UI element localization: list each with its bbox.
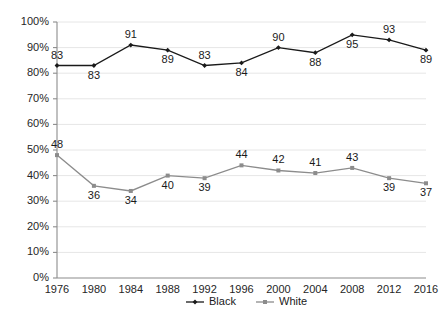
y-axis-tick-label: 90% xyxy=(27,41,49,53)
data-point-label: 40 xyxy=(162,179,174,191)
x-axis-tick-labels: 1976198019841988199219962000200420082012… xyxy=(45,283,438,295)
data-point-label: 83 xyxy=(198,49,210,61)
data-point-marker-white xyxy=(240,163,244,167)
x-axis-tick-label: 1988 xyxy=(155,283,179,295)
data-point-label: 88 xyxy=(309,56,321,68)
y-axis-tick-label: 30% xyxy=(27,194,49,206)
data-point-marker-white xyxy=(203,176,207,180)
legend-label-black: Black xyxy=(209,295,236,307)
y-axis-tick-label: 20% xyxy=(27,220,49,232)
data-point-label: 43 xyxy=(346,151,358,163)
data-point-label: 36 xyxy=(88,189,100,201)
data-point-label: 83 xyxy=(88,69,100,81)
data-point-label: 34 xyxy=(125,194,137,206)
data-point-label: 95 xyxy=(346,38,358,50)
data-point-label: 83 xyxy=(51,49,63,61)
data-point-marker-white xyxy=(55,153,59,157)
data-point-label: 37 xyxy=(420,186,432,198)
x-axis-tick-label: 2012 xyxy=(377,283,401,295)
legend-label-white: White xyxy=(279,295,307,307)
data-point-label: 93 xyxy=(383,23,395,35)
x-axis-tick-label: 2016 xyxy=(414,283,438,295)
y-axis-tick-label: 10% xyxy=(27,245,49,257)
data-point-label: 48 xyxy=(51,138,63,150)
data-point-marker-white xyxy=(350,166,354,170)
y-axis-tick-label: 70% xyxy=(27,92,49,104)
chart-canvas: 0%10%20%30%40%50%60%70%80%90%100% 197619… xyxy=(0,0,447,320)
data-point-label: 42 xyxy=(272,153,284,165)
data-point-label: 89 xyxy=(162,53,174,65)
x-axis-tick-label: 2000 xyxy=(266,283,290,295)
y-axis-tick-label: 60% xyxy=(27,117,49,129)
data-point-label: 90 xyxy=(272,31,284,43)
data-point-label: 39 xyxy=(198,181,210,193)
data-point-marker-white xyxy=(166,174,170,178)
x-axis-tick-label: 1980 xyxy=(82,283,106,295)
y-axis-tick-label: 80% xyxy=(27,66,49,78)
data-point-marker-white xyxy=(424,181,428,185)
x-axis-tick-label: 1984 xyxy=(119,283,143,295)
data-point-label: 89 xyxy=(420,53,432,65)
legend-marker-white xyxy=(263,300,267,304)
data-point-label: 39 xyxy=(383,181,395,193)
y-axis-tick-label: 100% xyxy=(21,15,49,27)
x-axis-tick-label: 1992 xyxy=(192,283,216,295)
y-axis-tick-label: 40% xyxy=(27,169,49,181)
data-point-label: 84 xyxy=(235,66,247,78)
data-point-marker-white xyxy=(313,171,317,175)
data-point-label: 91 xyxy=(125,28,137,40)
x-axis-tick-label: 1976 xyxy=(45,283,69,295)
x-axis-tick-label: 2004 xyxy=(303,283,327,295)
data-point-label: 41 xyxy=(309,156,321,168)
x-axis-tick-label: 1996 xyxy=(229,283,253,295)
data-point-label: 44 xyxy=(235,148,247,160)
line-chart: 0%10%20%30%40%50%60%70%80%90%100% 197619… xyxy=(0,0,447,320)
x-axis-tick-label: 2008 xyxy=(340,283,364,295)
y-axis-tick-label: 50% xyxy=(27,143,49,155)
y-axis-tick-label: 0% xyxy=(33,271,49,283)
data-point-marker-white xyxy=(129,189,133,193)
data-point-marker-white xyxy=(92,184,96,188)
data-point-marker-white xyxy=(387,176,391,180)
data-point-marker-white xyxy=(276,168,280,172)
